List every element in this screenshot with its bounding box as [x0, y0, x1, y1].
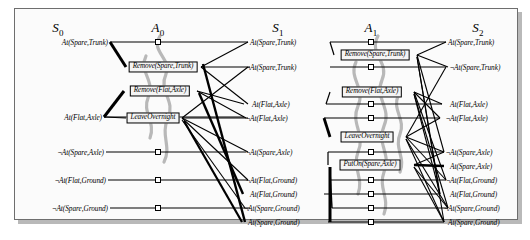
literal-s2-6: ¬At(Flat,Ground): [446, 176, 497, 185]
literal-s1-3: ¬At(Flat,Axle): [246, 114, 288, 123]
noop-a1-4[interactable]: [368, 149, 374, 155]
literal-s2-2: At(Flat,Axle): [450, 100, 488, 109]
literal-s0-0: At(Spare,Trunk): [62, 38, 108, 47]
literal-s1-1: ¬At(Spare,Trunk): [246, 63, 296, 72]
noop-a1-6[interactable]: [368, 191, 374, 197]
literal-s0-4: ¬At(Spare,Ground): [52, 204, 108, 213]
noop-a0-2[interactable]: [155, 149, 161, 155]
literal-s0-2: ¬At(Spare,Axle): [58, 148, 104, 157]
literal-s1-7: ¬At(Spare,Ground): [244, 204, 300, 213]
column-header-a0: A0: [152, 20, 165, 38]
column-header-s2: S2: [472, 20, 483, 38]
noop-a1-2[interactable]: [368, 101, 374, 107]
noop-a1-0[interactable]: [368, 39, 374, 45]
literal-s2-8: ¬At(Spare,Ground): [444, 204, 500, 213]
literal-s2-0: At(Spare,Trunk): [448, 38, 494, 47]
noop-a1-1[interactable]: [368, 64, 374, 70]
literal-s1-0: At(Spare,Trunk): [250, 38, 296, 47]
column-header-a1: A1: [365, 20, 378, 38]
literal-s0-1: At(Flat,Axle): [64, 113, 102, 122]
action-a0-remove-spare-trunk[interactable]: Remove(Spare,Trunk): [129, 61, 198, 72]
action-a1-remove-flat-axle[interactable]: Remove(Flat,Axle): [342, 86, 402, 97]
literal-s1-2: At(Flat,Axle): [252, 100, 290, 109]
literal-s2-4: ¬At(Spare,Axle): [446, 148, 492, 157]
literal-s2-5: At(Spare,Axle): [450, 162, 492, 171]
literal-s2-1: ¬At(Spare,Trunk): [450, 63, 500, 72]
literal-s0-3: ¬At(Flat,Ground): [55, 176, 106, 185]
noop-a0-0[interactable]: [155, 39, 161, 45]
noop-a0-3[interactable]: [155, 177, 161, 183]
action-a1-puton-spare-axle[interactable]: PutOn(Spare,Axle): [340, 159, 401, 170]
column-header-s0: S0: [52, 20, 63, 38]
noop-a1-3[interactable]: [368, 115, 374, 121]
action-a1-leave-overnight[interactable]: LeaveOvernight: [341, 131, 394, 142]
noop-a1-8[interactable]: [368, 219, 374, 225]
noop-a0-4[interactable]: [155, 205, 161, 211]
column-header-s1: S1: [272, 20, 283, 38]
planning-graph-figure: S0 A0 S1 A1 S2 At(Spare,Trunk) At(Flat,A…: [0, 0, 530, 240]
literal-s1-5: ¬At(Flat,Ground): [246, 176, 297, 185]
literal-s2-7: At(Flat,Ground): [450, 190, 497, 199]
literal-s1-4: ¬At(Spare,Axle): [246, 148, 292, 157]
literal-s1-6: At(Flat,Ground): [250, 190, 297, 199]
action-a0-remove-flat-axle[interactable]: Remove(Flat,Axle): [130, 85, 190, 96]
noop-a1-7[interactable]: [368, 205, 374, 211]
literal-s1-8: At(Spare,Ground): [248, 218, 300, 227]
literal-s2-9: At(Spare,Ground): [448, 218, 500, 227]
noop-a1-5[interactable]: [368, 177, 374, 183]
action-a0-leave-overnight[interactable]: LeaveOvernight: [127, 112, 180, 123]
literal-s2-3: ¬At(Flat,Axle): [446, 114, 488, 123]
action-a1-remove-spare-trunk[interactable]: Remove(Spare,Trunk): [341, 49, 410, 60]
